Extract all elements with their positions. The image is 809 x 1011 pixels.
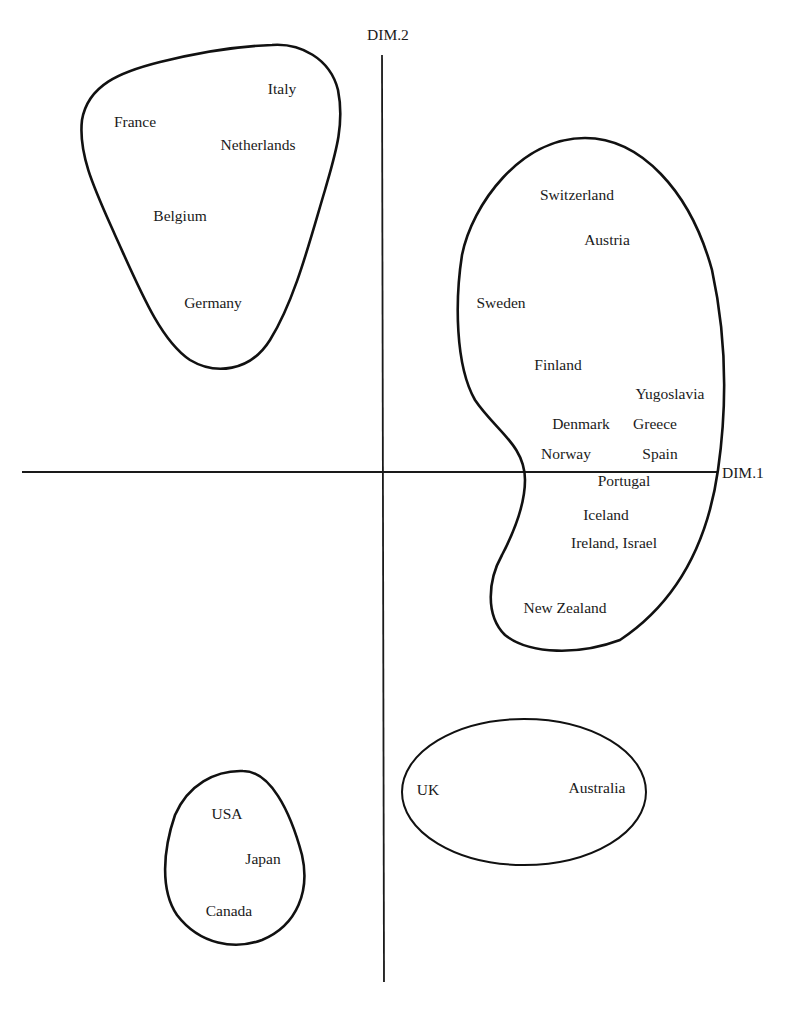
y-axis	[382, 55, 384, 982]
point-label: UK	[417, 781, 440, 798]
point-label: Finland	[534, 356, 582, 373]
y-axis-label: DIM.2	[367, 26, 409, 43]
point-label: Greece	[633, 415, 677, 432]
point-label: USA	[211, 805, 243, 822]
point-label: Canada	[206, 902, 253, 919]
x-axis-label: DIM.1	[722, 464, 764, 481]
point-label: Belgium	[153, 207, 206, 224]
point-label: Netherlands	[221, 136, 296, 153]
point-label: Iceland	[583, 506, 629, 523]
point-label: Yugoslavia	[636, 385, 705, 402]
point-label: Norway	[541, 445, 591, 462]
point-label: Sweden	[476, 294, 525, 311]
point-label: Denmark	[552, 415, 610, 432]
point-label: Portugal	[598, 472, 651, 489]
point-label: France	[114, 113, 156, 130]
mds-cluster-plot: DIM.1 DIM.2 Italy France Netherlands Bel…	[0, 0, 809, 1011]
point-label: Spain	[642, 445, 678, 462]
point-label: Austria	[584, 231, 630, 248]
point-label: Switzerland	[540, 186, 614, 203]
country-labels: Italy France Netherlands Belgium Germany…	[114, 80, 705, 919]
point-label: Japan	[245, 850, 281, 867]
cluster-outline-1	[81, 45, 340, 369]
point-label: Australia	[569, 779, 626, 796]
point-label: Ireland, Israel	[571, 534, 657, 551]
point-label: Germany	[184, 294, 242, 311]
point-label: Italy	[268, 80, 297, 97]
point-label: New Zealand	[523, 599, 606, 616]
